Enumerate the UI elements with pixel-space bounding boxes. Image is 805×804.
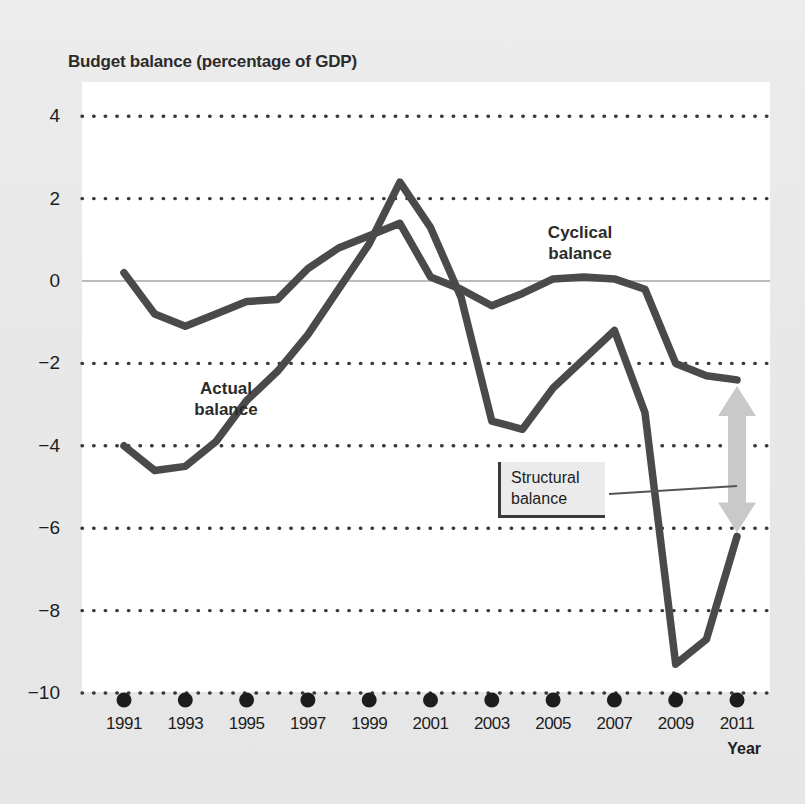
x-axis-tick-label: 1993 xyxy=(150,714,220,734)
x-axis-tick-marker xyxy=(300,693,315,708)
x-axis-tick-marker xyxy=(117,693,132,708)
x-axis-tick-label: 2005 xyxy=(518,714,588,734)
x-axis-tick-label: 2011 xyxy=(702,714,772,734)
actual-balance-label-line1: Actual xyxy=(178,378,274,399)
x-axis-tick-marker xyxy=(668,693,683,708)
structural-balance-callout: Structural balance xyxy=(498,462,605,518)
x-axis-tick-label: 2003 xyxy=(457,714,527,734)
y-axis-tick-label: −2 xyxy=(8,352,60,374)
x-axis-tick-marker xyxy=(546,693,561,708)
x-axis-tick-label: 2007 xyxy=(579,714,649,734)
callout-leader-line xyxy=(609,486,737,494)
y-axis-tick-label: −10 xyxy=(8,682,60,704)
structural-balance-callout-line1: Structural xyxy=(511,468,579,489)
x-axis-tick-marker xyxy=(423,693,438,708)
actual-balance-label-line2: balance xyxy=(178,399,274,420)
series-line-actual-balance xyxy=(124,182,737,664)
x-axis-tick-marker xyxy=(178,693,193,708)
x-axis-tick-markers xyxy=(117,693,745,708)
cyclical-balance-label-line2: balance xyxy=(528,243,632,264)
chart-canvas xyxy=(0,0,805,804)
y-axis-tick-label: −6 xyxy=(8,517,60,539)
x-axis-tick-label: 1999 xyxy=(334,714,404,734)
structural-balance-callout-line2: balance xyxy=(511,489,579,510)
x-axis-tick-marker xyxy=(607,693,622,708)
y-axis-tick-label: 0 xyxy=(8,270,60,292)
structural-balance-arrow xyxy=(718,386,756,533)
series-line-cyclical-balance xyxy=(124,223,737,380)
x-axis-tick-marker xyxy=(730,693,745,708)
x-axis-tick-label: 2001 xyxy=(396,714,466,734)
x-axis-tick-label: 1997 xyxy=(273,714,343,734)
x-axis-tick-label: 1995 xyxy=(212,714,282,734)
x-axis-tick-label: 2009 xyxy=(641,714,711,734)
y-axis-tick-label: −8 xyxy=(8,600,60,622)
y-axis-tick-label: −4 xyxy=(8,435,60,457)
x-axis-tick-marker xyxy=(484,693,499,708)
actual-balance-label: Actual balance xyxy=(178,378,274,421)
chart-figure: Budget balance (percentage of GDP) 420−2… xyxy=(0,0,805,804)
x-axis-tick-label: 1991 xyxy=(89,714,159,734)
cyclical-balance-label: Cyclical balance xyxy=(528,222,632,265)
y-axis-tick-label: 4 xyxy=(8,105,60,127)
x-axis-tick-marker xyxy=(362,693,377,708)
cyclical-balance-label-line1: Cyclical xyxy=(528,222,632,243)
y-axis-tick-label: 2 xyxy=(8,188,60,210)
x-axis-tick-marker xyxy=(239,693,254,708)
x-axis-title: Year xyxy=(727,740,761,758)
